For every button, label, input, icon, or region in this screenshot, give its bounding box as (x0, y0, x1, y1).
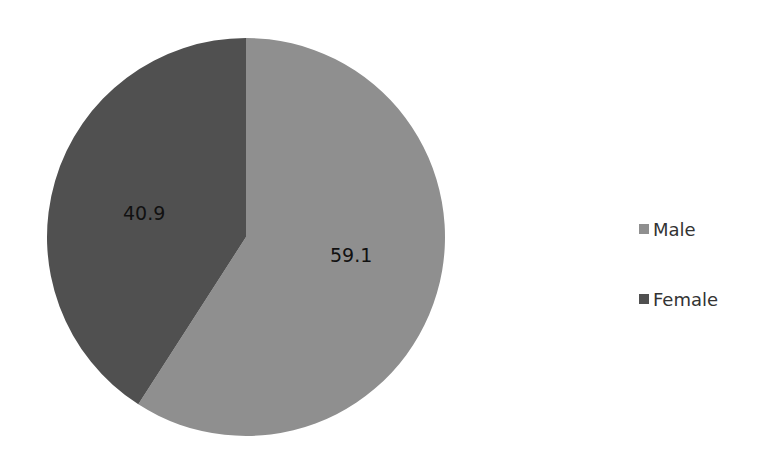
legend: Male Female (639, 214, 718, 354)
legend-label-female: Female (653, 289, 718, 310)
legend-label-male: Male (653, 219, 696, 240)
legend-swatch-male (639, 224, 649, 234)
data-label-female: 40.9 (123, 202, 165, 224)
legend-swatch-female (639, 294, 649, 304)
legend-item-female[interactable]: Female (639, 284, 718, 314)
data-label-male: 59.1 (330, 244, 372, 266)
legend-item-male[interactable]: Male (639, 214, 718, 244)
